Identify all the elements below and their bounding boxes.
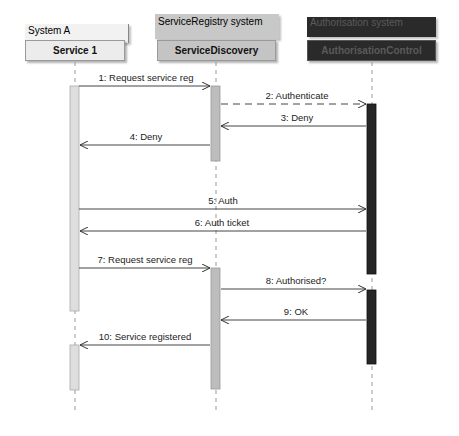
message-8-label: 8: Authorised? [266,275,327,286]
messages [79,86,366,345]
activation-service-1-b [70,345,79,390]
lifelines [75,62,372,412]
message-3-label: 3: Deny [281,112,314,123]
message-4-label: 4: Deny [130,131,163,142]
message-1-label: 1: Request service reg [98,72,193,83]
message-7-label: 7: Request service reg [97,254,192,265]
message-6-label: 6: Auth ticket [195,217,249,228]
activation-authorisation-b [367,290,376,364]
message-9-label: 9: OK [284,306,308,317]
message-10-label: 10: Service registered [99,331,191,342]
activations [70,86,376,390]
message-5-label: 5: Auth [208,195,238,206]
activation-service-discovery-a [211,86,220,161]
activation-authorisation-a [367,104,376,274]
message-2-label: 2: Authenticate [266,90,329,101]
activation-service-discovery-b [211,268,220,389]
activation-service-1-a [70,86,79,311]
